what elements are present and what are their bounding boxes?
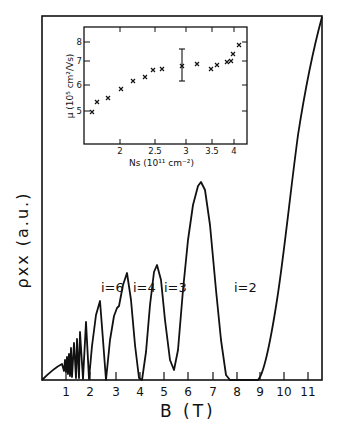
inset-y-tick-label: 8 (77, 37, 82, 47)
inset-x-tick-label: 2 (117, 146, 122, 156)
annotation-i6: i=6 (101, 280, 124, 295)
x-tick-label: 1 (62, 385, 70, 399)
x-tick-label: 11 (300, 385, 315, 399)
x-tick-label: 2 (86, 385, 94, 399)
chart-figure (0, 0, 338, 434)
annotation-i2: i=2 (234, 280, 257, 295)
inset-y-tick-label: 5 (77, 106, 82, 116)
x-tick-label: 7 (209, 385, 217, 399)
inset-x-tick-label: 3 (183, 146, 188, 156)
x-tick-label: 3 (112, 385, 120, 399)
inset-y-tick-label: 6 (77, 80, 82, 90)
x-tick-label: 5 (160, 385, 168, 399)
inset-plot-frame (84, 27, 247, 144)
x-tick-label: 8 (233, 385, 241, 399)
x-axis-title: B (T) (160, 401, 216, 421)
inset-y-tick-label: 7 (77, 56, 82, 66)
main-x-ticks (66, 372, 308, 380)
inset-x-axis-title: Ns (10¹¹ cm⁻²) (129, 158, 194, 168)
inset-x-tick-label: 4 (231, 146, 236, 156)
y-axis-title: ρxx (a.u.) (13, 192, 32, 289)
x-tick-label: 4 (136, 385, 144, 399)
inset-x-tick-label: 3.5 (205, 146, 219, 156)
annotation-i3: i=3 (164, 280, 187, 295)
x-tick-label: 9 (256, 385, 264, 399)
inset-y-axis-title: μ (10⁵ cm²/Vs) (65, 54, 75, 119)
annotation-i4: i=4 (133, 280, 156, 295)
x-tick-label: 10 (276, 385, 291, 399)
x-tick-label: 6 (184, 385, 192, 399)
inset-x-tick-label: 2.5 (148, 146, 162, 156)
